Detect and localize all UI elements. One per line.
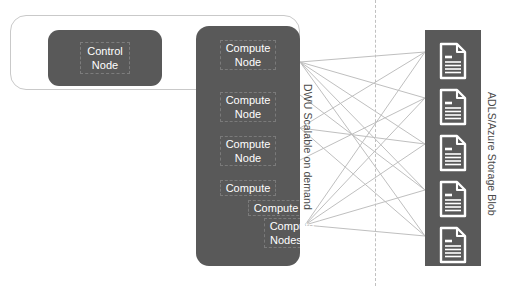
compute-node-4[interactable]: Compute bbox=[196, 178, 300, 196]
compute-node-label-box: Compute bbox=[248, 200, 305, 216]
compute-node-label: Compute Node bbox=[226, 93, 271, 121]
diagram-canvas: Control Node Compute NodeCompute NodeCom… bbox=[0, 0, 510, 286]
compute-node-label: Compute Node bbox=[226, 41, 271, 69]
connector-line-6 bbox=[300, 52, 425, 128]
document-icon bbox=[438, 226, 468, 264]
compute-node-3[interactable]: Compute Node bbox=[196, 136, 300, 166]
compute-node-stack[interactable]: Compute NodeCompute NodeCompute NodeComp… bbox=[196, 26, 300, 266]
compute-node-label: Compute bbox=[226, 181, 271, 195]
document-icon bbox=[438, 42, 468, 80]
connector-line-1 bbox=[300, 52, 425, 62]
compute-node-label-box: Compute Node bbox=[220, 40, 277, 70]
compute-node-label-box: Compute Node bbox=[220, 136, 277, 166]
connector-line-4 bbox=[300, 62, 425, 190]
document-icon bbox=[438, 134, 468, 172]
compute-node-label-box: Compute bbox=[220, 180, 277, 196]
document-icon bbox=[438, 88, 468, 126]
compute-node-2[interactable]: Compute Node bbox=[196, 92, 300, 122]
connector-line-2 bbox=[300, 62, 425, 98]
connector-line-14 bbox=[300, 95, 425, 190]
compute-node-label-box: Compute Nodes.... bbox=[264, 218, 321, 248]
connector-line-3 bbox=[300, 62, 425, 144]
compute-node-1[interactable]: Compute Node bbox=[196, 40, 300, 70]
document-icon bbox=[438, 180, 468, 218]
compute-node-label: Compute bbox=[254, 201, 299, 215]
control-node-label: Control Node bbox=[87, 44, 122, 72]
storage-panel[interactable] bbox=[425, 30, 481, 266]
vertical-dashed-divider bbox=[375, 0, 376, 286]
connector-line-15 bbox=[300, 98, 425, 160]
compute-node-6[interactable]: Compute Nodes.... bbox=[196, 218, 344, 248]
storage-label: ADLS/Azure Storage Blob bbox=[486, 92, 498, 216]
compute-node-label: Compute Node bbox=[226, 137, 271, 165]
compute-node-label: Compute Nodes.... bbox=[270, 219, 315, 247]
dwu-scalable-label: DWU Scalable on demand bbox=[302, 84, 314, 210]
control-node[interactable]: Control Node bbox=[48, 30, 162, 86]
compute-node-label-box: Compute Node bbox=[220, 92, 277, 122]
connector-line-7 bbox=[300, 128, 425, 144]
control-node-label-box: Control Node bbox=[80, 42, 129, 74]
